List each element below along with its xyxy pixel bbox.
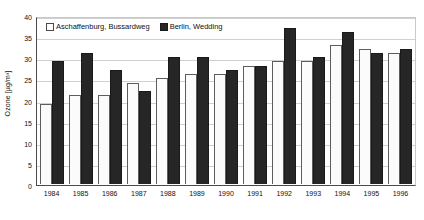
year-group: [327, 18, 356, 184]
year-group: [269, 18, 298, 184]
bar[interactable]: [301, 61, 313, 184]
year-group: [356, 18, 385, 184]
y-tick-label: 5: [28, 161, 32, 168]
bars-layer: [38, 18, 414, 184]
x-tick-label: 1992: [270, 190, 299, 197]
x-tick-label: 1990: [211, 190, 240, 197]
y-tick-label: 15: [24, 119, 32, 126]
y-tick-label: 0: [28, 183, 32, 190]
bar[interactable]: [388, 53, 400, 184]
bar[interactable]: [214, 74, 226, 184]
y-axis-title-label: Ozone [µg/m³]: [5, 70, 12, 116]
bar[interactable]: [185, 74, 197, 184]
bar[interactable]: [243, 66, 255, 184]
bar[interactable]: [330, 45, 342, 184]
bar[interactable]: [226, 70, 238, 184]
y-tick-label: 40: [24, 14, 32, 21]
bar[interactable]: [69, 95, 81, 184]
legend-label: Aschaffenburg, Bussardweg: [56, 22, 150, 31]
y-tick-label: 20: [24, 98, 32, 105]
y-tick-label: 10: [24, 140, 32, 147]
bar[interactable]: [52, 61, 64, 184]
year-group: [385, 18, 414, 184]
x-tick-label: 1993: [299, 190, 328, 197]
x-tick-label: 1994: [328, 190, 357, 197]
year-group: [240, 18, 269, 184]
year-group: [212, 18, 241, 184]
x-tick-label: 1985: [66, 190, 95, 197]
x-tick-label: 1996: [386, 190, 415, 197]
legend-label: Berlin, Wedding: [170, 22, 223, 31]
year-group: [125, 18, 154, 184]
x-tick-label: 1988: [153, 190, 182, 197]
x-tick-label: 1989: [182, 190, 211, 197]
bar[interactable]: [156, 78, 168, 184]
year-group: [183, 18, 212, 184]
year-group: [154, 18, 183, 184]
bar[interactable]: [255, 66, 267, 184]
bar[interactable]: [110, 70, 122, 184]
x-axis-tick-labels: 1984198519861987198819891990199119921993…: [37, 190, 415, 197]
bar[interactable]: [127, 83, 139, 184]
y-tick-label: 35: [24, 35, 32, 42]
bar[interactable]: [40, 104, 52, 184]
bar[interactable]: [272, 61, 284, 184]
plot-area: [36, 17, 416, 186]
bar[interactable]: [197, 57, 209, 184]
x-tick-label: 1986: [95, 190, 124, 197]
y-tick-label: 30: [24, 56, 32, 63]
x-tick-label: 1991: [241, 190, 270, 197]
year-group: [67, 18, 96, 184]
legend-entry[interactable]: Berlin, Wedding: [160, 22, 223, 31]
year-group: [96, 18, 125, 184]
bar[interactable]: [168, 57, 180, 184]
bar[interactable]: [359, 49, 371, 184]
bar[interactable]: [139, 91, 151, 184]
bar[interactable]: [284, 28, 296, 184]
y-tick-label: 25: [24, 77, 32, 84]
legend-swatch-icon: [46, 23, 54, 31]
bar[interactable]: [313, 57, 325, 184]
bar[interactable]: [81, 53, 93, 184]
year-group: [298, 18, 327, 184]
y-axis-tick-labels: 0510152025303540: [14, 17, 34, 186]
legend-entry[interactable]: Aschaffenburg, Bussardweg: [46, 22, 150, 31]
x-tick-label: 1987: [124, 190, 153, 197]
ozone-bar-chart: Ozone [µg/m³] 0510152025303540 Aschaffen…: [0, 0, 424, 220]
x-tick-label: 1995: [357, 190, 386, 197]
year-group: [38, 18, 67, 184]
bar[interactable]: [371, 53, 383, 184]
chart-legend: Aschaffenburg, BussardwegBerlin, Wedding: [46, 22, 222, 31]
bar[interactable]: [342, 32, 354, 184]
bar[interactable]: [400, 49, 412, 184]
x-tick-label: 1984: [37, 190, 66, 197]
bar[interactable]: [98, 95, 110, 184]
legend-swatch-icon: [160, 23, 168, 31]
